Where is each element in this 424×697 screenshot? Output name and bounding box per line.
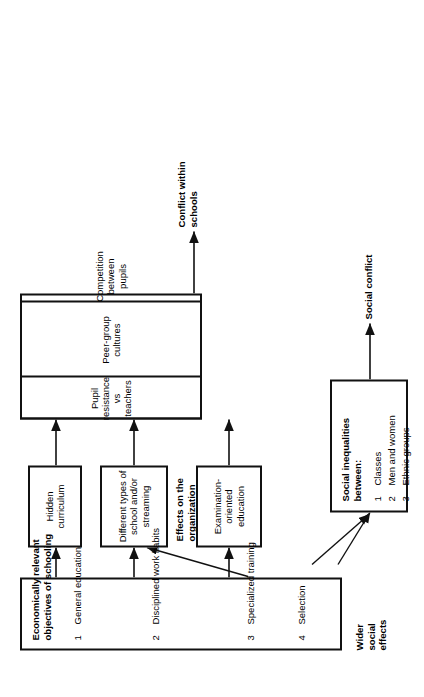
figure-stage: Effects on the organization of schooling… [0,0,424,697]
objectives-item-1-number: 1 [72,635,83,640]
economically-relevant-objectives-box [20,577,342,650]
section-label-wider-social-effects: Wider social effects [354,540,389,650]
inequalities-item-2-text: Men and women [386,415,397,485]
box-examination-oriented-education-inner: Examination- oriented education [198,467,260,545]
box-examination-oriented-education: Examination- oriented education [196,465,262,547]
objectives-item-4-number: 4 [296,635,307,640]
box-different-types-of-school-label: Different types of school and/or streami… [117,470,151,542]
arrow-selection-to-school-types-diagonal [147,547,248,576]
diagram-canvas: Effects on the organization of schooling… [0,0,424,697]
cell-peer-group-cultures: Peer-group cultures [20,302,202,377]
objectives-item-2-number: 2 [150,635,161,640]
objectives-item-1-text: General education [72,546,83,624]
objectives-item-3-text: Specialized training [245,542,256,624]
inequalities-item-3-number: 3 [400,496,411,501]
objectives-item-2-text: Disciplined work habits [150,527,161,624]
outcome-social-conflict: Social conflict [363,209,375,319]
box-examination-oriented-education-label: Examination- oriented education [212,478,246,533]
objectives-heading: Economically relevant objectives of scho… [30,510,53,640]
cell-peer-group-cultures-label: Peer-group cultures [100,316,122,364]
cell-pupil-resistance-label: Pupil resistance vs teachers [89,376,134,419]
cell-pupil-resistance: Pupil resistance vs teachers [20,377,202,419]
inequalities-item-2-number: 2 [386,496,397,501]
cell-competition-between-pupils: Competition between pupils [20,250,202,302]
objectives-item-4-text: Selection [296,585,307,624]
objectives-item-3-number: 3 [245,635,256,640]
outcome-conflict-within-schools: Conflict within schools [176,117,199,227]
inequalities-item-1-text: Classes [372,451,383,485]
inequalities-item-1-number: 1 [372,496,383,501]
inequalities-heading: Social inequalities between: [340,371,363,501]
cell-competition-between-pupils-label: Competition between pupils [94,251,128,302]
inequalities-item-3-text: Ethnic groups [400,427,411,485]
